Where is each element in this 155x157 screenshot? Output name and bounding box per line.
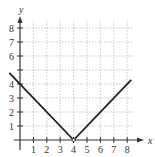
x-axis-arrow-icon [137, 138, 144, 143]
x-tick-label: 1 [31, 144, 36, 155]
series-line [9, 73, 131, 140]
x-tick-label: 5 [85, 144, 90, 155]
y-tick-label: 7 [9, 37, 14, 48]
y-tick-label: 3 [9, 93, 14, 104]
x-tick-label: 8 [125, 144, 130, 155]
x-tick-label: 4 [71, 144, 76, 155]
chart: xy 123456781234678 [0, 0, 155, 157]
vertex-point [72, 138, 75, 141]
y-tick-label: 6 [9, 51, 14, 62]
x-tick-label: 6 [98, 144, 103, 155]
y-tick-label: 4 [9, 79, 14, 90]
y-tick-label: 1 [9, 121, 14, 132]
x-tick-label: 3 [58, 144, 63, 155]
y-axis-arrow-icon [18, 16, 23, 23]
grid [20, 20, 133, 140]
y-tick-label: 8 [9, 23, 14, 34]
x-tick-label: 7 [111, 144, 116, 155]
x-axis-label: x [147, 135, 153, 146]
y-tick-label: 2 [9, 107, 14, 118]
axes: xy [14, 4, 153, 150]
plot-area [9, 73, 131, 142]
x-tick-label: 2 [44, 144, 49, 155]
y-axis-label: y [18, 4, 24, 15]
